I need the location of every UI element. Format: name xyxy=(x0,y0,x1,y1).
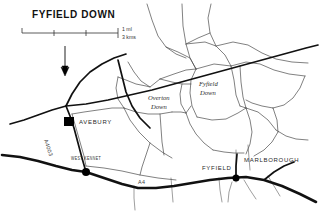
scale-label-miles: 1 ml xyxy=(122,26,132,32)
boundary-line xyxy=(186,113,213,150)
boundary-line xyxy=(276,130,308,140)
road-west-spur xyxy=(10,106,66,124)
boundary-line xyxy=(171,178,173,202)
boundary-line xyxy=(240,106,246,108)
boundary-line xyxy=(254,132,278,156)
label-fyfield-down-line2: Down xyxy=(199,89,216,96)
boundary-line xyxy=(273,76,305,108)
label-overton-down-line1: Overton xyxy=(148,94,170,101)
boundary-line xyxy=(180,84,186,113)
label-layer: AVEBURY WEST KENNET FYFIELD MARLBOROUGH … xyxy=(43,80,299,185)
boundary-line xyxy=(140,143,150,175)
road-ridgeway-diagonal xyxy=(66,45,318,106)
map-title: FYFIELD DOWN xyxy=(32,9,115,20)
boundary-line xyxy=(134,186,135,210)
boundary-line xyxy=(240,66,246,108)
boundary-line xyxy=(246,108,252,154)
label-road-a4: A4 xyxy=(138,179,145,185)
boundary-line xyxy=(124,108,172,158)
boundary-line xyxy=(219,178,222,202)
boundary-line xyxy=(231,66,240,106)
label-marlborough: MARLBOROUGH xyxy=(244,157,299,163)
boundary-line xyxy=(160,69,196,79)
road-marlborough-link xyxy=(264,162,294,180)
boundary-line xyxy=(197,108,246,120)
north-arrow-icon xyxy=(61,46,69,76)
boundary-line xyxy=(128,62,160,87)
boundary-line xyxy=(147,4,186,58)
scale-bar: 1 ml 3 kms xyxy=(22,26,136,40)
label-overton-down-line2: Down xyxy=(150,103,167,110)
road-a4003 xyxy=(66,106,86,172)
boundary-line xyxy=(160,114,164,155)
settlement-marker-west-kennet xyxy=(82,168,90,176)
scale-label-kms: 3 kms xyxy=(122,34,136,40)
boundary-line xyxy=(244,180,256,199)
boundary-line xyxy=(228,182,232,202)
boundary-line xyxy=(86,166,176,180)
settlement-marker-avebury xyxy=(64,117,74,126)
boundary-line xyxy=(231,62,305,76)
map-figure: 1 ml 3 kms AVEBURY WEST KENNET FYFIELD M… xyxy=(0,0,321,217)
road-fyfield-link xyxy=(236,154,237,178)
boundary-line xyxy=(208,4,216,46)
boundary-line xyxy=(213,150,244,153)
boundary-line xyxy=(186,106,191,113)
label-fyfield: FYFIELD xyxy=(202,165,232,171)
map-canvas: 1 ml 3 kms AVEBURY WEST KENNET FYFIELD M… xyxy=(0,0,321,217)
boundary-line xyxy=(246,100,273,108)
boundary-line xyxy=(246,108,276,130)
boundary-line xyxy=(190,69,197,117)
boundary-line xyxy=(196,64,231,69)
label-road-a4003: A4003 xyxy=(43,138,54,157)
label-avebury: AVEBURY xyxy=(79,119,112,125)
boundary-line xyxy=(182,4,196,69)
boundary-line xyxy=(172,112,186,113)
boundary-line xyxy=(72,108,124,114)
label-fyfield-down-line1: Fyfield xyxy=(198,80,218,87)
label-west-kennet-line1: WEST KENNET xyxy=(71,155,101,161)
settlement-marker-fyfield xyxy=(233,175,240,182)
boundary-line xyxy=(273,108,278,132)
